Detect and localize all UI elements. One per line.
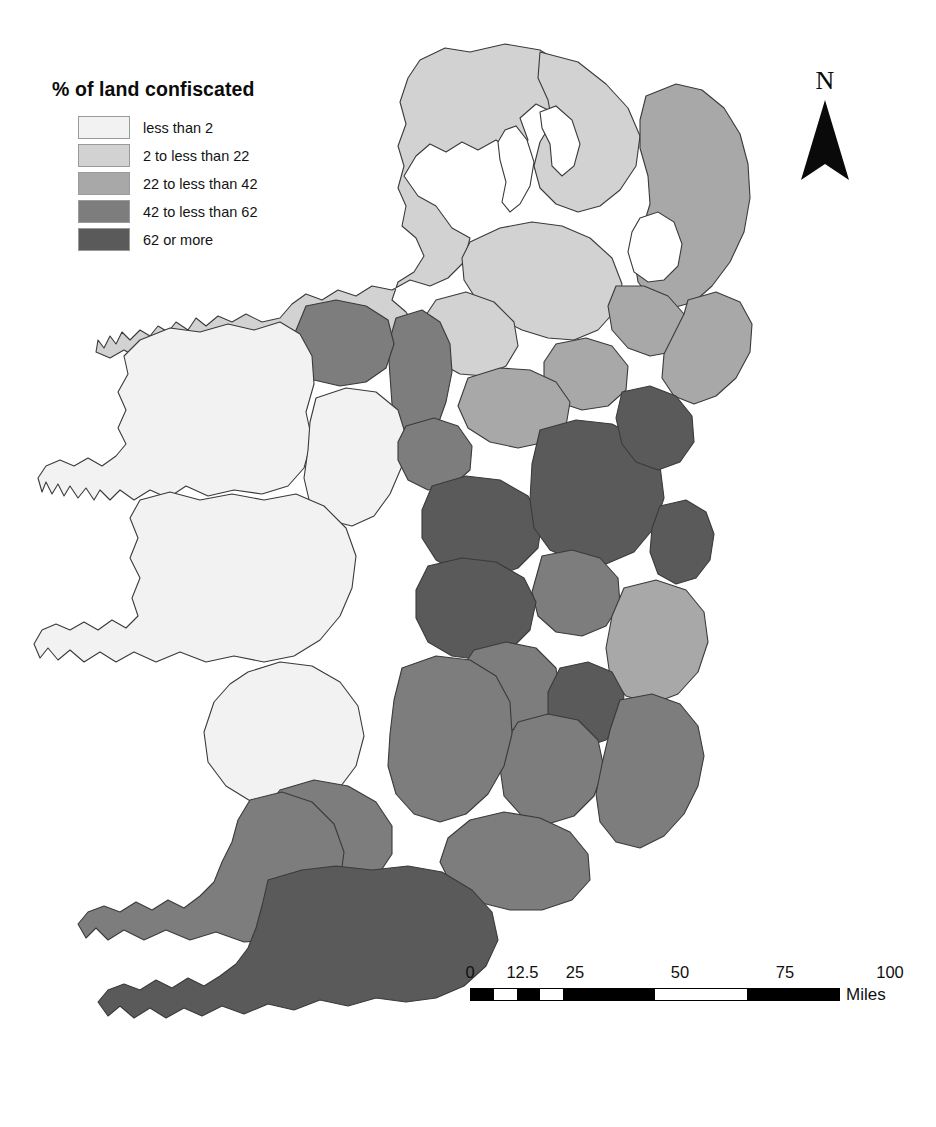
- scalebar-segment: [494, 989, 517, 1000]
- scalebar-bar: [470, 988, 840, 1001]
- county-cork[interactable]: [98, 866, 498, 1018]
- water-lough-swilly: [498, 126, 534, 212]
- scalebar-segment: [471, 989, 494, 1000]
- scalebar-ticks: 0 12.5 25 50 75 100: [470, 963, 890, 985]
- map-legend: % of land confiscated less than 2 2 to l…: [52, 78, 332, 255]
- scalebar-tick-label: 25: [566, 963, 584, 982]
- scalebar-units-label: Miles: [846, 985, 886, 1005]
- north-arrow: N: [790, 68, 860, 188]
- legend-item[interactable]: 42 to less than 62: [52, 199, 332, 224]
- legend-swatch-62-or-more: [78, 228, 130, 251]
- county-mayo[interactable]: [38, 322, 314, 500]
- scalebar-segment: [563, 989, 655, 1000]
- legend-swatch-2-to-22: [78, 144, 130, 167]
- legend-swatch-42-to-62: [78, 200, 130, 223]
- legend-swatch-less-than-2: [78, 116, 130, 139]
- legend-title: % of land confiscated: [52, 78, 332, 101]
- legend-swatch-22-to-42: [78, 172, 130, 195]
- legend-label: 62 or more: [143, 232, 213, 248]
- legend-item[interactable]: 62 or more: [52, 227, 332, 252]
- scalebar-tick-label: 12.5: [506, 963, 538, 982]
- legend-label: 2 to less than 22: [143, 148, 249, 164]
- county-tipperary[interactable]: [388, 656, 512, 822]
- scalebar-segment: [540, 989, 563, 1000]
- scalebar-segment: [655, 989, 747, 1000]
- county-kilkenny[interactable]: [500, 714, 604, 824]
- scalebar-tick-label: 75: [776, 963, 794, 982]
- scalebar-segment: [517, 989, 540, 1000]
- scalebar-tick-label: 50: [671, 963, 689, 982]
- county-galway[interactable]: [34, 492, 356, 662]
- scalebar-tick-label: 100: [876, 963, 904, 982]
- map-figure: % of land confiscated less than 2 2 to l…: [0, 0, 936, 1127]
- legend-item[interactable]: 2 to less than 22: [52, 143, 332, 168]
- county-wicklow[interactable]: [606, 580, 708, 704]
- north-arrow-icon: [797, 98, 853, 184]
- scalebar-segment: [747, 989, 839, 1000]
- legend-item[interactable]: less than 2: [52, 115, 332, 140]
- legend-label: 22 to less than 42: [143, 176, 257, 192]
- legend-label: 42 to less than 62: [143, 204, 257, 220]
- north-arrow-label: N: [790, 68, 860, 94]
- county-dublin[interactable]: [650, 500, 714, 584]
- legend-label: less than 2: [143, 120, 213, 136]
- scalebar-tick-label: 0: [465, 963, 474, 982]
- legend-item[interactable]: 22 to less than 42: [52, 171, 332, 196]
- scalebar: 0 12.5 25 50 75 100 Miles: [470, 963, 890, 1023]
